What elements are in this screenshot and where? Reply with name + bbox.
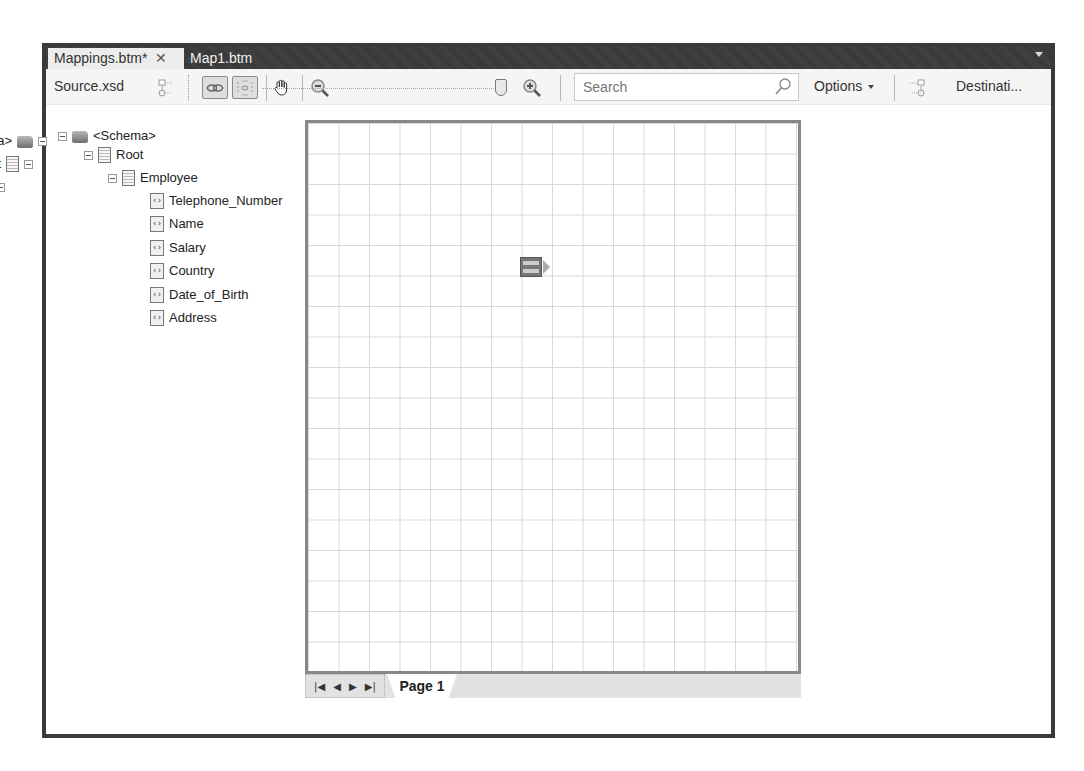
last-page-icon[interactable]: ▶| <box>365 681 376 692</box>
link-icon <box>206 82 224 94</box>
page-navigation: |◀ ◀ ▶ ▶| <box>305 674 385 698</box>
prev-page-icon[interactable]: ◀ <box>333 681 341 692</box>
folder-icon <box>72 131 88 143</box>
toolbar-separator <box>560 75 561 101</box>
tab-map1[interactable]: Map1.btm <box>184 48 258 69</box>
field-element-icon: ‹› <box>150 310 164 326</box>
tree-field-address[interactable]: Address ‹› <box>0 224 47 242</box>
tree-field-date-of-birth[interactable]: ‹› Date_of_Birth <box>150 286 249 304</box>
search-field[interactable] <box>574 73 799 101</box>
functoid-output-arrow-icon <box>543 260 550 274</box>
search-input[interactable] <box>575 74 765 100</box>
tab-label: Map1.btm <box>190 50 252 66</box>
destination-schema-icon[interactable] <box>908 78 928 98</box>
options-label: Options <box>814 78 862 94</box>
tree-node-schema[interactable]: <Schema> <box>0 132 47 150</box>
collapse-icon[interactable] <box>84 151 93 160</box>
page-tab[interactable]: Page 1 <box>387 674 457 698</box>
tree-field-salary[interactable]: ‹› Salary <box>150 239 206 257</box>
field-element-icon: ‹› <box>150 240 164 256</box>
grid-page-bar: |◀ ◀ ▶ ▶| Page 1 <box>305 674 801 698</box>
folder-icon <box>17 136 33 148</box>
field-element-icon: ‹› <box>150 193 164 209</box>
destination-schema-label: Destinati... <box>956 78 1022 94</box>
search-icon[interactable] <box>774 78 792 96</box>
field-element-icon: ‹› <box>150 287 164 303</box>
options-dropdown[interactable]: Options <box>814 78 874 94</box>
collapse-icon[interactable] <box>38 137 47 146</box>
source-schema-label: Source.xsd <box>54 78 124 94</box>
functoid-icon[interactable] <box>520 257 542 277</box>
tree-field-address[interactable]: ‹› Address <box>150 309 217 327</box>
tree-field-telephone-number[interactable]: ‹› Telephone_Number <box>150 192 282 210</box>
collapse-icon[interactable] <box>0 183 5 192</box>
zoom-slider-thumb[interactable] <box>495 79 507 96</box>
document-tab-strip: Mappings.btm*✕ Map1.btm <box>46 46 1051 69</box>
record-icon <box>98 147 111 163</box>
collapse-icon[interactable] <box>108 174 117 183</box>
tree-node-root[interactable]: Root <box>0 155 47 173</box>
tree-node-schema[interactable]: <Schema> <box>58 127 156 145</box>
next-page-icon[interactable]: ▶ <box>349 681 357 692</box>
tab-overflow-dropdown-icon[interactable] <box>1035 52 1043 57</box>
zoom-slider-track[interactable] <box>262 88 494 89</box>
tree-node-person[interactable]: Person <box>0 178 47 196</box>
link-relevance-icon <box>235 79 255 97</box>
collapse-icon[interactable] <box>24 160 33 169</box>
tab-label: Mappings.btm* <box>54 50 147 66</box>
map-grid-canvas[interactable] <box>305 120 801 674</box>
field-element-icon: ‹› <box>150 216 164 232</box>
collapse-icon[interactable] <box>58 132 67 141</box>
chevron-down-icon <box>868 85 874 89</box>
zoom-in-icon[interactable] <box>522 78 542 98</box>
mapper-toolbar: Source.xsd <box>46 69 1051 105</box>
close-icon[interactable]: ✕ <box>155 50 167 66</box>
link-toggle-button[interactable] <box>202 76 228 99</box>
tree-node-root[interactable]: Root <box>84 146 143 164</box>
tree-field-country[interactable]: ‹› Country <box>150 262 215 280</box>
field-element-icon: ‹› <box>150 263 164 279</box>
tree-field-name[interactable]: ‹› Name <box>150 215 204 233</box>
tree-field-name[interactable]: Name ‹› <box>0 201 47 219</box>
record-icon <box>6 156 19 172</box>
tab-mappings[interactable]: Mappings.btm*✕ <box>48 48 184 69</box>
record-icon <box>122 170 135 186</box>
first-page-icon[interactable]: |◀ <box>314 681 325 692</box>
relevance-tree-button[interactable] <box>232 76 258 99</box>
tree-node-employee[interactable]: Employee <box>108 169 198 187</box>
map-editor-window: Mappings.btm*✕ Map1.btm Source.xsd <box>42 43 1055 738</box>
toolbar-separator <box>188 75 189 101</box>
tree-field-other[interactable]: Other ‹› <box>0 247 47 265</box>
source-schema-icon[interactable] <box>156 78 176 98</box>
toolbar-separator <box>894 75 895 101</box>
